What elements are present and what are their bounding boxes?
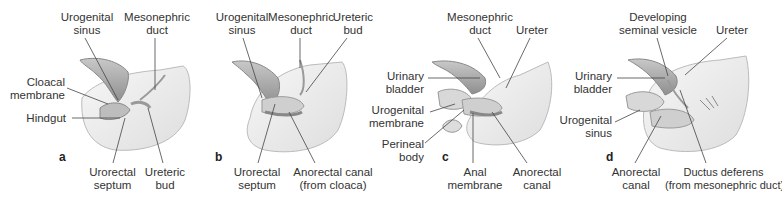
panel-c-illustration <box>432 61 552 145</box>
label-b-anorectal-canal: Anorectal canal (from cloaca) <box>288 166 378 192</box>
label-d-urinary-bladder: Urinary bladder <box>560 70 612 96</box>
label-a-mesonephric-duct: Mesonephric duct <box>122 11 192 37</box>
embryology-figure: Urogenital sinus Mesonephric duct Cloaca… <box>0 0 782 207</box>
label-c-anorectal-canal: Anorectal canal <box>507 166 567 192</box>
label-c-anal-membrane: Anal membrane <box>445 166 505 192</box>
label-c-urinary-bladder: Urinary bladder <box>370 70 424 96</box>
label-d-urogenital-sinus: Urogenital sinus <box>550 114 612 140</box>
label-c-mesonephric-duct: Mesonephric duct <box>445 11 515 37</box>
label-a-urogenital-sinus: Urogenital sinus <box>52 11 122 37</box>
label-b-urogenital-sinus: Urogenital sinus <box>209 11 275 37</box>
label-a-hindgut: Hindgut <box>10 112 66 125</box>
panel-b-illustration <box>232 60 347 152</box>
panel-d-illustration <box>626 56 749 152</box>
label-d-anorectal-canal: Anorectal canal <box>606 166 666 192</box>
label-c-perineal-body: Perineal body <box>370 138 424 164</box>
label-b-mesonephric-duct: Mesonephric duct <box>268 11 334 37</box>
label-a-urorectal-septum: Urorectal septum <box>80 166 145 192</box>
label-c-urogenital-membrane: Urogenital membrane <box>362 104 424 130</box>
label-c-ureter: Ureter <box>512 24 552 37</box>
label-b-urorectal-septum: Urorectal septum <box>225 166 289 192</box>
label-b-ureteric-bud: Ureteric bud <box>330 11 376 37</box>
label-d-developing-seminal-vesicle: Developing seminal vesicle <box>615 11 701 37</box>
label-a-ureteric-bud: Ureteric bud <box>140 166 190 192</box>
panel-letter-d: d <box>606 150 613 164</box>
panel-letter-b: b <box>215 150 222 164</box>
label-a-cloacal-membrane: Cloacal membrane <box>10 76 65 102</box>
panel-a-illustration <box>80 58 190 150</box>
label-d-ureter: Ureter <box>712 24 752 37</box>
label-d-ductus-deferens: Ductus deferens (from mesonephric duct) <box>665 166 782 192</box>
panel-letter-c: c <box>442 150 449 164</box>
panel-letter-a: a <box>59 150 66 164</box>
